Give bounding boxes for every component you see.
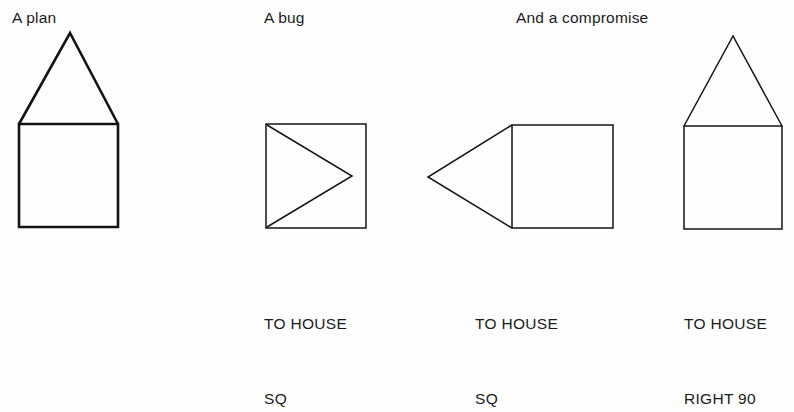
figures-layer <box>0 0 794 412</box>
caption-and-a-compromise: And a compromise <box>516 10 648 26</box>
code-block-bug: TO HOUSE SQ TR1 <box>264 261 347 412</box>
code-block-fixed: TO HOUSE RIGHT 90 SQ RIGHT 30 TR1 END <box>684 261 767 412</box>
figure-house-fixed <box>684 36 782 229</box>
code-line: TO HOUSE <box>475 311 558 336</box>
code-block-compromise: TO HOUSE SQ RIGHT 30 TR1 END <box>475 261 558 412</box>
house-bug-square-icon <box>266 124 366 228</box>
caption-a-plan: A plan <box>12 10 56 26</box>
figure-house-plan <box>19 33 118 227</box>
figure-house-compromise <box>428 125 613 228</box>
house-compromise-triangle-icon <box>428 125 512 228</box>
house-fixed-roof-triangle-icon <box>684 36 782 126</box>
code-line: RIGHT 90 <box>684 386 767 411</box>
caption-a-bug: A bug <box>264 10 305 26</box>
figure-house-bug <box>266 124 366 228</box>
scanned-page: A plan A bug And a compromise TO HOUSE S… <box>0 0 794 412</box>
code-line: SQ <box>264 386 347 411</box>
code-line: TO HOUSE <box>684 311 767 336</box>
code-line: TO HOUSE <box>264 311 347 336</box>
house-plan-square-icon <box>19 124 118 227</box>
house-compromise-square-icon <box>512 125 613 228</box>
code-line: SQ <box>475 386 558 411</box>
house-fixed-square-icon <box>684 126 782 229</box>
house-plan-roof-triangle-icon <box>19 33 118 124</box>
house-bug-inner-triangle-icon <box>267 125 352 227</box>
